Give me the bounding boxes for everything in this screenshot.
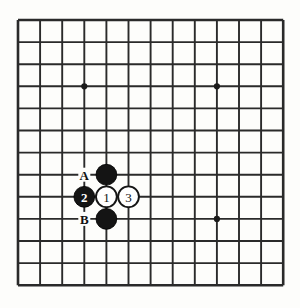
black-stone-lower[interactable] <box>96 209 117 230</box>
black-stone-move-2[interactable]: 2 <box>74 186 95 207</box>
star-point-upper-left <box>81 83 87 89</box>
point-label-a: A <box>80 168 90 183</box>
go-board-diagram: AB 213 <box>0 0 300 308</box>
star-point-upper-right <box>214 83 220 89</box>
white-stone-move-3[interactable]: 3 <box>118 186 139 207</box>
black-stone-move-2-number: 2 <box>81 190 88 205</box>
white-stone-move-3-number: 3 <box>125 190 132 205</box>
white-stone-move-1-number: 1 <box>103 190 110 205</box>
white-stone-move-1[interactable]: 1 <box>96 186 117 207</box>
grid-lines <box>18 20 283 285</box>
black-stone-upper-disc[interactable] <box>96 164 117 185</box>
point-label-b: B <box>80 212 89 227</box>
black-stone-lower-disc[interactable] <box>96 209 117 230</box>
go-board-canvas[interactable]: AB 213 <box>0 0 300 308</box>
star-point-lower-right <box>214 216 220 222</box>
black-stone-upper[interactable] <box>96 164 117 185</box>
